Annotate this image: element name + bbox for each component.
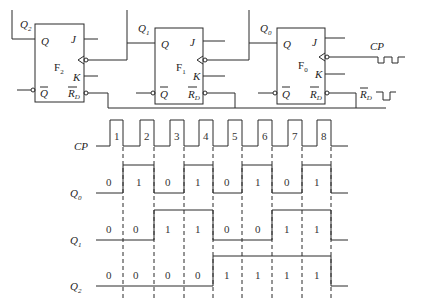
q1-value: 0 bbox=[133, 223, 139, 235]
f1-qbar-pin: Q bbox=[160, 88, 168, 100]
pulse-number: 3 bbox=[174, 130, 180, 142]
q2-value: 1 bbox=[314, 269, 320, 281]
f2-j-pin: J bbox=[71, 33, 77, 45]
q0-value: 0 bbox=[165, 176, 171, 188]
q1-value: 1 bbox=[165, 223, 171, 235]
q2-value: 1 bbox=[224, 269, 230, 281]
f2-k-pin: K bbox=[72, 71, 81, 83]
q0-value: 0 bbox=[284, 176, 290, 188]
timing-q2: Q2 0 0 0 0 1 1 1 1 bbox=[70, 256, 348, 295]
rd-input-label: RD bbox=[359, 88, 372, 102]
f0-q-pin: Q bbox=[283, 38, 291, 50]
f2-q-pin: Q bbox=[41, 35, 49, 47]
q2-value: 0 bbox=[106, 269, 112, 281]
pulse-number: 7 bbox=[292, 130, 298, 142]
f0-output-label: Q0 bbox=[260, 22, 272, 37]
q1-value: 1 bbox=[284, 223, 290, 235]
q0-value: 1 bbox=[255, 176, 261, 188]
pulse-number: 8 bbox=[321, 130, 327, 142]
cp-input: CP bbox=[370, 40, 405, 63]
q0-value: 1 bbox=[195, 176, 201, 188]
timing-q2-label: Q2 bbox=[70, 280, 82, 295]
f0-rd-pin: RD bbox=[309, 88, 322, 102]
q1-value: 1 bbox=[314, 223, 320, 235]
q2-value: 0 bbox=[165, 269, 171, 281]
q0-value: 0 bbox=[106, 176, 112, 188]
pulse-number: 4 bbox=[203, 130, 209, 142]
f2-name: F2 bbox=[54, 61, 64, 76]
timing-q1: Q1 0 0 1 1 0 0 1 1 bbox=[70, 210, 348, 249]
q1-value: 0 bbox=[106, 223, 112, 235]
cp-input-label: CP bbox=[370, 40, 384, 52]
pulse-number: 1 bbox=[114, 130, 120, 142]
rd-input: RD bbox=[359, 88, 396, 102]
pulse-number: 2 bbox=[144, 130, 150, 142]
counter-diagram: Q2 Q J F2 K Q RD Q1 Q J F1 K bbox=[0, 0, 422, 301]
flip-flop-f1: Q1 Q J F1 K Q RD bbox=[127, 22, 249, 108]
timing-cp: CP 1 2 3 4 5 6 7 8 bbox=[74, 120, 348, 152]
q1-value: 1 bbox=[195, 223, 201, 235]
q0-value: 1 bbox=[314, 176, 320, 188]
f1-j-pin: J bbox=[190, 36, 196, 48]
flip-flop-f0: Q0 Q J F0 K Q RD bbox=[249, 22, 370, 108]
q1-value: 0 bbox=[255, 223, 261, 235]
f2-qbar-pin: Q bbox=[40, 87, 48, 99]
pulse-number: 6 bbox=[262, 130, 268, 142]
q0-value: 0 bbox=[224, 176, 230, 188]
timing-q1-label: Q1 bbox=[70, 234, 81, 249]
f1-rd-pin: RD bbox=[187, 88, 200, 102]
f1-output-label: Q1 bbox=[138, 22, 149, 37]
f0-j-pin: J bbox=[312, 36, 318, 48]
f2-rd-pin: RD bbox=[67, 87, 80, 101]
q2-value: 0 bbox=[133, 269, 139, 281]
q1-value: 0 bbox=[224, 223, 230, 235]
f0-qbar-pin: Q bbox=[282, 88, 290, 100]
q2-value: 0 bbox=[195, 269, 201, 281]
pulse-number: 5 bbox=[232, 130, 238, 142]
timing-q0: Q0 0 1 0 1 0 1 0 1 bbox=[70, 165, 348, 202]
timing-cp-label: CP bbox=[74, 140, 88, 152]
f1-q-pin: Q bbox=[161, 38, 169, 50]
flip-flop-f2: Q2 Q J F2 K Q RD bbox=[12, 10, 127, 108]
q2-value: 1 bbox=[255, 269, 261, 281]
f1-name: F1 bbox=[176, 61, 186, 76]
f0-name: F0 bbox=[298, 59, 308, 74]
f0-k-pin: K bbox=[314, 68, 323, 80]
timing-q0-label: Q0 bbox=[70, 187, 82, 202]
f2-output-label: Q2 bbox=[20, 18, 32, 33]
q2-value: 1 bbox=[284, 269, 290, 281]
f1-k-pin: K bbox=[192, 70, 201, 82]
q0-value: 1 bbox=[136, 176, 142, 188]
